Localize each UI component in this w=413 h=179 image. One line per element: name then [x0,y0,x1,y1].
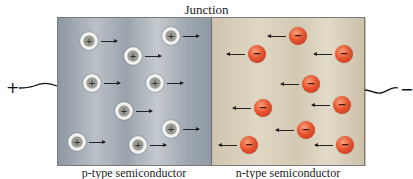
electron-particle: − [289,27,307,45]
left-wire-icon [18,80,58,94]
electron-particle: − [335,45,353,63]
electron-particle: − [302,75,320,93]
negative-terminal-symbol: − [400,82,413,98]
arrow-right-icon [183,36,199,37]
p-type-label: p-type semiconductor [57,166,211,179]
arrow-right-icon [183,129,199,130]
hole-particle: + [124,47,142,65]
hole-particle: + [162,27,180,45]
arrow-right-icon [136,111,152,112]
arrow-right-icon [89,142,105,143]
electron-particle: − [336,136,354,154]
arrow-left-icon [233,108,251,109]
arrow-left-icon [314,54,332,55]
arrow-left-icon [268,36,286,37]
arrow-left-icon [315,145,333,146]
hole-particle: + [115,102,133,120]
arrow-right-icon [101,41,117,42]
arrow-right-icon [167,83,183,84]
arrow-left-icon [312,105,330,106]
arrow-left-icon [281,84,299,85]
arrow-right-icon [104,83,120,84]
arrow-left-icon [227,54,245,55]
hole-particle: + [68,133,86,151]
diagram-title: Junction [0,2,413,18]
electron-particle: − [240,136,258,154]
hole-particle: + [146,74,164,92]
hole-particle: + [83,74,101,92]
hole-particle: + [129,136,147,154]
electron-particle: − [297,121,315,139]
electron-particle: − [248,45,266,63]
right-wire-icon [365,84,403,98]
hole-particle: + [162,120,180,138]
arrow-right-icon [150,145,166,146]
electron-particle: − [254,99,272,117]
arrow-right-icon [145,56,161,57]
electron-particle: − [333,96,351,114]
arrow-left-icon [219,145,237,146]
hole-particle: + [80,32,98,50]
n-type-label: n-type semiconductor [211,166,365,179]
arrow-left-icon [276,130,294,131]
